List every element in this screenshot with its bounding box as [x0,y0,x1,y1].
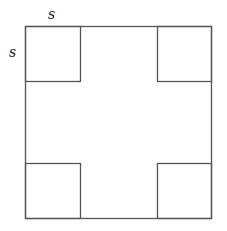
side-label-left: s [9,44,16,60]
outer-square [26,27,212,219]
corner-square-top-left [26,27,81,82]
cut-corners-square-diagram: s s [0,0,227,231]
corner-square-bottom-left [26,164,81,219]
side-label-top: s [48,6,55,22]
diagram-canvas: s s [0,0,227,231]
corner-square-bottom-right [158,164,212,219]
corner-square-top-right [158,27,212,82]
